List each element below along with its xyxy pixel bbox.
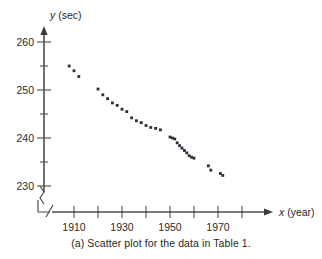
scatter-point [183, 149, 186, 152]
scatter-point [173, 138, 176, 141]
y-axis-title: y (sec) [49, 9, 82, 21]
scatter-point [207, 164, 210, 167]
y-tick-label-230: 230 [16, 180, 34, 192]
figure-caption: (a) Scatter plot for the data in Table 1… [0, 237, 322, 249]
scatter-point [190, 156, 193, 159]
x-tick-label-1930: 1930 [110, 221, 134, 233]
scatter-point [209, 169, 212, 172]
scatter-point [176, 141, 179, 144]
y-tick-label-250: 250 [16, 84, 34, 96]
scatter-point [111, 102, 114, 105]
scatter-point [181, 147, 184, 150]
x-axis-title: x (year) [278, 206, 315, 218]
y-axis-tick-labels: 260 250 240 230 [16, 36, 34, 192]
scatter-points-layer [68, 65, 224, 177]
y-axis-arrowhead [40, 26, 47, 35]
scatter-point [188, 154, 191, 157]
y-tick-label-240: 240 [16, 132, 34, 144]
scatter-point [73, 69, 76, 72]
scatter-point [97, 88, 100, 91]
scatter-point [135, 119, 138, 122]
x-axis-break-mark [46, 205, 53, 217]
scatter-point [154, 127, 157, 130]
scatter-point [171, 137, 174, 140]
scatter-point [125, 110, 128, 113]
scatter-point [159, 128, 162, 131]
scatter-point [145, 124, 148, 127]
scatter-point [219, 172, 222, 175]
y-tick-label-260: 260 [16, 36, 34, 48]
scatter-point [130, 116, 133, 119]
scatter-plot-figure: 260 250 240 230 1910 1930 1950 1970 y (s… [0, 0, 322, 259]
x-axis-arrowhead [264, 208, 273, 215]
scatter-point [77, 75, 80, 78]
x-tick-label-1970: 1970 [206, 221, 230, 233]
scatter-point [221, 174, 224, 177]
x-tick-label-1950: 1950 [158, 221, 182, 233]
scatter-point [169, 136, 172, 139]
scatter-point [121, 108, 124, 111]
scatter-point [193, 157, 196, 160]
scatter-point [116, 104, 119, 107]
scatter-point [149, 126, 152, 129]
x-axis-tick-labels: 1910 1930 1950 1970 [62, 221, 230, 233]
origin-corner-mark [38, 200, 50, 212]
y-axis-title-unit: (sec) [58, 9, 81, 21]
scatter-point [106, 97, 109, 100]
scatter-point [140, 121, 143, 124]
scatter-point [68, 65, 71, 68]
scatter-point [185, 151, 188, 154]
chart-canvas: 260 250 240 230 1910 1930 1950 1970 y (s… [0, 0, 322, 259]
scatter-point [101, 93, 104, 96]
x-tick-label-1910: 1910 [62, 221, 86, 233]
x-axis-title-unit: (year) [287, 206, 314, 218]
scatter-point [178, 144, 181, 147]
